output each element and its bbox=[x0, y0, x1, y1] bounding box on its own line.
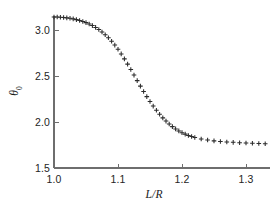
data-point-marker bbox=[116, 47, 121, 52]
data-point-marker bbox=[263, 141, 268, 146]
data-point-marker bbox=[250, 141, 255, 146]
data-point-marker bbox=[135, 78, 140, 83]
data-point-marker bbox=[74, 17, 79, 22]
data-point-marker bbox=[225, 140, 230, 145]
data-point-marker bbox=[132, 73, 137, 78]
x-tick-label: 1.3 bbox=[239, 173, 254, 185]
data-point-marker bbox=[145, 94, 150, 99]
data-point-marker bbox=[167, 122, 172, 127]
x-tick-label: 1.2 bbox=[175, 173, 190, 185]
data-point-marker bbox=[68, 16, 73, 21]
data-point-marker bbox=[113, 43, 118, 48]
data-point-marker bbox=[205, 138, 210, 143]
data-point-marker bbox=[154, 108, 159, 113]
y-tick-label: 3.0 bbox=[28, 24, 50, 36]
data-point-marker bbox=[151, 104, 156, 109]
data-point-marker bbox=[244, 141, 249, 146]
x-axis-title: L/R bbox=[145, 188, 162, 200]
data-markers-group bbox=[52, 15, 268, 146]
data-point-marker bbox=[100, 30, 105, 35]
figure-container: 1.01.11.21.3 1.52.02.53.0 L/R θ0 bbox=[0, 0, 278, 209]
data-point-marker bbox=[164, 119, 169, 124]
data-point-marker bbox=[119, 52, 124, 57]
y-tick-label: 2.0 bbox=[28, 116, 50, 128]
y-axis-title: θ0 bbox=[8, 86, 23, 95]
data-point-marker bbox=[170, 124, 175, 129]
y-tick-label: 2.5 bbox=[28, 70, 50, 82]
data-point-marker bbox=[138, 84, 143, 89]
x-tick-label: 1.0 bbox=[47, 173, 62, 185]
data-point-marker bbox=[231, 140, 236, 145]
data-point-marker bbox=[237, 140, 242, 145]
y-tick-label: 1.5 bbox=[28, 162, 50, 174]
data-point-marker bbox=[141, 89, 146, 94]
data-point-marker bbox=[103, 32, 108, 37]
data-point-marker bbox=[122, 57, 127, 62]
data-point-marker bbox=[71, 17, 76, 22]
data-point-marker bbox=[212, 139, 217, 144]
data-point-marker bbox=[157, 112, 162, 117]
data-point-marker bbox=[129, 67, 134, 72]
axis-group bbox=[54, 16, 270, 168]
data-point-marker bbox=[106, 35, 111, 40]
data-point-marker bbox=[109, 39, 114, 44]
data-point-marker bbox=[257, 141, 262, 146]
data-point-marker bbox=[218, 139, 223, 144]
data-point-marker bbox=[199, 137, 204, 142]
data-point-marker bbox=[148, 99, 153, 104]
x-tick-label: 1.1 bbox=[111, 173, 126, 185]
data-point-marker bbox=[77, 18, 82, 23]
data-point-marker bbox=[161, 116, 166, 121]
data-point-marker bbox=[193, 135, 198, 140]
data-point-marker bbox=[125, 62, 130, 67]
